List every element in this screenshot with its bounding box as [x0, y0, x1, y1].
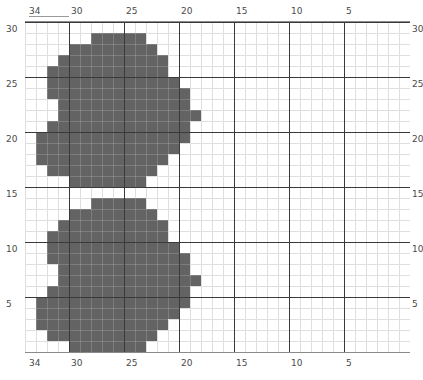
grid-cell: [146, 209, 157, 220]
grid-cell: [80, 297, 91, 308]
grid-cell: [124, 44, 135, 55]
grid-cell: [69, 143, 80, 154]
axis-tick-right-0: 30: [412, 24, 423, 34]
grid-cell: [113, 154, 124, 165]
grid-cell: [80, 176, 91, 187]
grid-cell: [146, 297, 157, 308]
grid-cell: [135, 319, 146, 330]
grid-cell: [157, 77, 168, 88]
grid-cell: [47, 121, 58, 132]
grid-cell: [113, 319, 124, 330]
grid-cell: [146, 154, 157, 165]
grid-cell: [69, 44, 80, 55]
grid-cell: [113, 33, 124, 44]
grid-cell: [80, 165, 91, 176]
grid-cell: [69, 231, 80, 242]
grid-cell: [168, 110, 179, 121]
grid-cell: [135, 33, 146, 44]
grid-cell: [69, 110, 80, 121]
grid-cell: [58, 55, 69, 66]
grid-cell: [135, 176, 146, 187]
grid-cell: [135, 198, 146, 209]
grid-cell: [135, 121, 146, 132]
axis-tick-left-2: 20: [6, 134, 17, 144]
grid-cell: [47, 143, 58, 154]
grid-cell: [135, 308, 146, 319]
grid-cell: [80, 77, 91, 88]
grid-cell: [80, 220, 91, 231]
plot-border-bottom: [25, 352, 410, 353]
grid-cell: [102, 341, 113, 352]
grid-cell: [124, 209, 135, 220]
grid-cell: [47, 297, 58, 308]
grid-cell: [179, 286, 190, 297]
grid-cell: [179, 132, 190, 143]
grid-cell: [102, 44, 113, 55]
grid-cell: [80, 110, 91, 121]
grid-cell: [102, 209, 113, 220]
grid-cell: [80, 66, 91, 77]
grid-cell: [135, 77, 146, 88]
grid-cell: [102, 33, 113, 44]
grid-cell: [91, 319, 102, 330]
grid-cell: [91, 286, 102, 297]
grid-cell: [168, 99, 179, 110]
grid-cell: [113, 88, 124, 99]
grid-cell: [113, 242, 124, 253]
axis-tick-bottom-1: 30: [71, 358, 82, 368]
grid-cell: [58, 275, 69, 286]
grid-cell: [135, 264, 146, 275]
grid-cell: [135, 330, 146, 341]
grid-cell: [157, 286, 168, 297]
grid-cell: [69, 297, 80, 308]
grid-cell: [80, 253, 91, 264]
grid-cell: [113, 198, 124, 209]
grid-cell: [124, 99, 135, 110]
grid-cell: [102, 77, 113, 88]
grid-cell: [69, 77, 80, 88]
grid-cell: [69, 242, 80, 253]
grid-cell: [58, 319, 69, 330]
grid-cell: [69, 154, 80, 165]
grid-cell: [146, 44, 157, 55]
grid-cell: [47, 154, 58, 165]
grid-cell: [47, 77, 58, 88]
grid-cell: [58, 99, 69, 110]
grid-cell: [58, 110, 69, 121]
grid-cell: [146, 275, 157, 286]
grid-cell: [157, 110, 168, 121]
grid-cell: [80, 319, 91, 330]
grid-cell: [80, 99, 91, 110]
grid-cell: [146, 264, 157, 275]
grid-cell: [146, 231, 157, 242]
grid-cell: [47, 253, 58, 264]
grid-cell: [146, 242, 157, 253]
grid-cell: [135, 253, 146, 264]
grid-cell: [135, 297, 146, 308]
grid-cell: [135, 209, 146, 220]
grid-cell: [179, 99, 190, 110]
grid-cell: [113, 308, 124, 319]
grid-cell: [69, 176, 80, 187]
grid-cell: [80, 308, 91, 319]
grid-cell: [102, 308, 113, 319]
grid-cell: [102, 176, 113, 187]
grid-cell: [168, 264, 179, 275]
grid-cell: [179, 110, 190, 121]
grid-cell: [113, 341, 124, 352]
grid-cell: [80, 341, 91, 352]
axis-tick-top-0: 34: [29, 6, 40, 16]
grid-cell: [58, 143, 69, 154]
axis-rule-top-left: [29, 16, 69, 17]
grid-cell: [168, 297, 179, 308]
grid-cell: [124, 220, 135, 231]
axis-tick-top-4: 15: [236, 6, 247, 16]
grid-cell: [58, 165, 69, 176]
grid-cell: [113, 44, 124, 55]
grid-cell: [91, 88, 102, 99]
grid-cell: [91, 176, 102, 187]
grid-cell: [146, 319, 157, 330]
grid-cell: [113, 66, 124, 77]
axis-tick-top-3: 20: [181, 6, 192, 16]
